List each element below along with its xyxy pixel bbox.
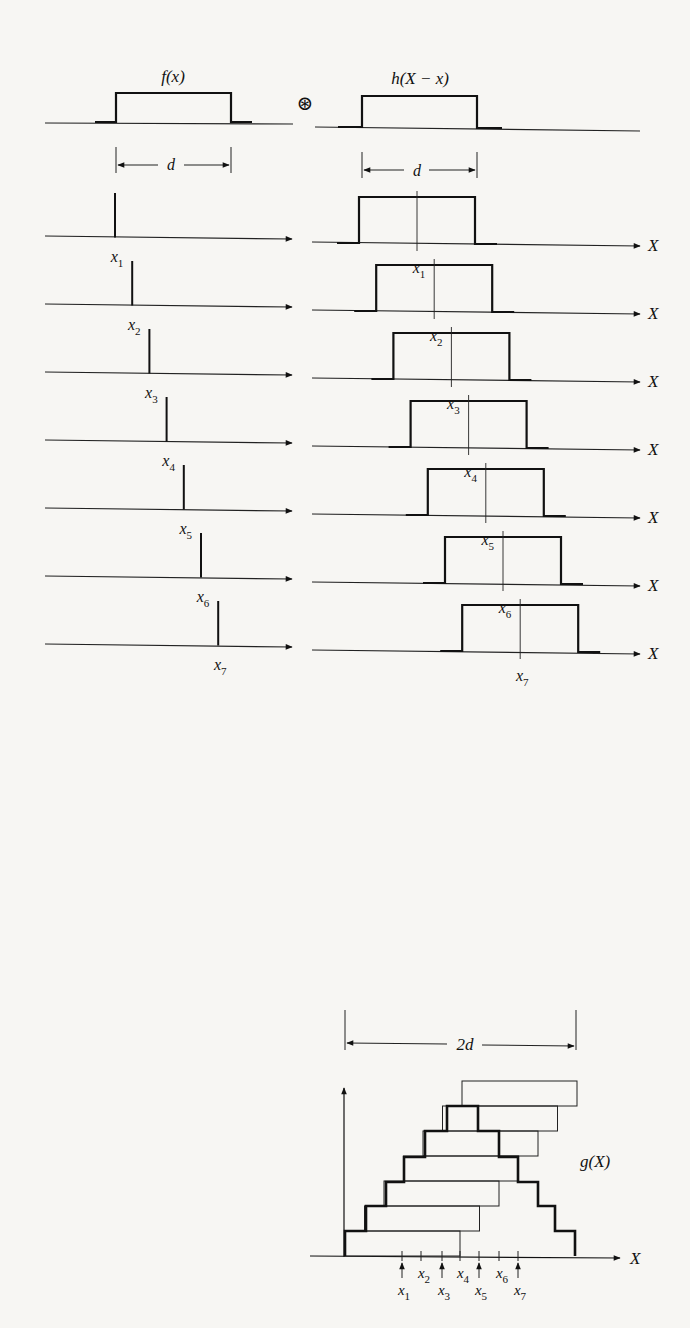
row-6: x6Xx6 (45, 531, 659, 620)
h-label: h(X − x) (391, 69, 449, 88)
impulse-label-subscript: 7 (221, 665, 227, 677)
box-center-label: x5 (480, 531, 494, 552)
box-center-label-main: x (463, 463, 471, 480)
left-axis (45, 372, 292, 375)
box-center-label: x2 (429, 327, 443, 348)
box-center-label: x4 (463, 463, 477, 484)
impulse-label-main: x (127, 316, 135, 333)
tick-label: x7 (513, 1282, 527, 1302)
box-center-label-subscript: 4 (471, 472, 477, 484)
tick-label-subscript: 4 (464, 1273, 470, 1285)
impulse-label: x6 (196, 588, 210, 609)
impulse-label-subscript: 2 (135, 325, 141, 337)
axis-label-X: X (647, 508, 659, 527)
axis-label-X: X (647, 372, 659, 391)
impulse-label-main: x (144, 384, 152, 401)
box-center-label: x1 (412, 259, 426, 280)
axis-label-X: X (647, 576, 659, 595)
convolution-diagram: f(x) d ⊛ h(X − x) d x1Xx1x2Xx2x3Xx3x4Xx4… (0, 0, 690, 1328)
box-center-label: x7 (515, 667, 529, 688)
row-7: x7Xx7 (45, 599, 659, 688)
right-axis (312, 582, 640, 586)
g-result-plot: X g(X) x1x2x3x4x5x6x7 (310, 1081, 641, 1302)
impulse-label: x5 (178, 520, 192, 541)
box-center-label: x3 (446, 395, 460, 416)
box-center-label-main: x (480, 531, 488, 548)
impulse-label-subscript: 3 (152, 393, 158, 405)
box-center-label-main: x (515, 667, 523, 684)
stacked-box-6 (443, 1106, 558, 1131)
right-axis (312, 514, 640, 518)
tick-label-subscript: 7 (521, 1290, 527, 1302)
tick-label: x2 (417, 1265, 430, 1285)
box-center-label-subscript: 1 (420, 268, 426, 280)
right-axis (312, 446, 640, 450)
left-axis (45, 644, 292, 647)
axis-label-X: X (647, 644, 659, 663)
impulse-label-subscript: 6 (204, 597, 210, 609)
impulse-label: x1 (110, 248, 124, 269)
box-center-label-subscript: 7 (523, 676, 529, 688)
span-2d: 2d (345, 1010, 576, 1054)
tick-label: x5 (474, 1282, 488, 1302)
row-3: x3Xx3 (45, 327, 659, 416)
stacked-box-3 (384, 1181, 499, 1206)
row-4: x4Xx4 (45, 395, 659, 484)
stacked-box-5 (423, 1131, 538, 1156)
impulse-label-main: x (110, 248, 118, 265)
tick-label: x3 (437, 1282, 451, 1302)
axis-label-X: X (647, 304, 659, 323)
box-center-label-subscript: 6 (506, 608, 512, 620)
impulse-label: x3 (144, 384, 158, 405)
f-label: f(x) (161, 67, 185, 86)
stacked-box-2 (365, 1206, 480, 1231)
tick-label-subscript: 3 (445, 1290, 451, 1302)
impulse-label-main: x (178, 520, 186, 537)
tick-label: x6 (495, 1265, 509, 1285)
box-center-label-main: x (412, 259, 420, 276)
convolution-symbol: ⊛ (297, 92, 314, 114)
impulse-label-subscript: 1 (118, 257, 124, 269)
tick-label-subscript: 5 (482, 1290, 488, 1302)
width-label-d-right: d (413, 162, 422, 179)
box-center-label-subscript: 3 (454, 404, 460, 416)
impulse-label-main: x (161, 452, 169, 469)
left-axis (45, 508, 292, 511)
axis-label-X: X (647, 440, 659, 459)
box-center-label: x6 (498, 599, 512, 620)
row-1: x1Xx1 (45, 191, 659, 280)
box-center-label-main: x (498, 599, 506, 616)
box-center-label-subscript: 5 (489, 540, 495, 552)
left-axis (45, 576, 292, 579)
row-2: x2Xx2 (45, 259, 659, 348)
header-f-function: f(x) d (45, 67, 293, 173)
axis-label-X: X (647, 236, 659, 255)
impulse-label-subscript: 5 (187, 529, 193, 541)
span-label: 2d (457, 1035, 475, 1054)
tick-label-subscript: 1 (405, 1290, 411, 1302)
impulse-label: x2 (127, 316, 141, 337)
impulse-label-subscript: 4 (169, 461, 175, 473)
result-axis-label: X (629, 1249, 641, 1268)
impulse-label-main: x (196, 588, 204, 605)
left-axis (45, 304, 292, 307)
shifted-rows: x1Xx1x2Xx2x3Xx3x4Xx4x5Xx5x6Xx6x7Xx7 (45, 191, 659, 688)
box-center-label-main: x (429, 327, 437, 344)
impulse-label: x4 (161, 452, 175, 473)
stacked-box-4 (404, 1156, 519, 1181)
width-label-d-left: d (167, 156, 176, 173)
right-axis (312, 378, 640, 382)
tick-label: x1 (397, 1282, 410, 1302)
header-h-function: h(X − x) d (315, 69, 640, 179)
tick-label-subscript: 6 (503, 1273, 509, 1285)
left-axis (45, 440, 292, 443)
g-label: g(X) (580, 1152, 611, 1171)
box-center-label-main: x (446, 395, 454, 412)
row-5: x5Xx5 (45, 463, 659, 552)
left-axis (45, 236, 292, 239)
tick-label: x4 (456, 1265, 470, 1285)
stacked-box-7 (462, 1081, 577, 1106)
box-center-label-subscript: 2 (437, 336, 443, 348)
impulse-label-main: x (213, 656, 221, 673)
impulse-label: x7 (213, 656, 227, 677)
